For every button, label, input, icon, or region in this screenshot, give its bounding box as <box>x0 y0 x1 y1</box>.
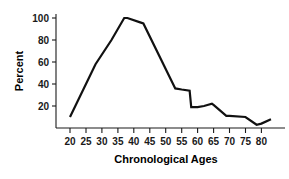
x-tick-label-25: 25 <box>80 136 92 147</box>
x-tick-label-35: 35 <box>112 136 124 147</box>
y-axis-ticks <box>52 18 56 106</box>
x-tick-label-30: 30 <box>96 136 108 147</box>
x-tick-label-50: 50 <box>160 136 172 147</box>
y-tick-label-80: 80 <box>38 35 50 46</box>
x-tick-label-70: 70 <box>224 136 236 147</box>
x-tick-label-45: 45 <box>144 136 156 147</box>
y-tick-label-60: 60 <box>38 57 50 68</box>
x-axis-ticks <box>70 128 261 133</box>
y-tick-label-20: 20 <box>38 101 50 112</box>
x-tick-label-75: 75 <box>240 136 252 147</box>
x-tick-label-60: 60 <box>192 136 204 147</box>
y-axis-title: Percent <box>13 50 25 91</box>
x-tick-label-65: 65 <box>208 136 220 147</box>
data-line-percent <box>70 18 271 125</box>
x-tick-label-40: 40 <box>128 136 140 147</box>
chart-container: 100 80 60 40 20 Percent <box>0 0 289 179</box>
y-axis-group: 100 80 60 40 20 Percent <box>13 13 56 129</box>
x-tick-label-80: 80 <box>256 136 268 147</box>
x-tick-label-20: 20 <box>64 136 76 147</box>
x-axis-group: 20 25 30 35 40 45 50 55 60 65 70 75 80 C… <box>56 128 285 165</box>
x-tick-label-55: 55 <box>176 136 188 147</box>
x-axis-title: Chronological Ages <box>114 153 218 165</box>
y-tick-label-40: 40 <box>38 79 50 90</box>
y-tick-label-100: 100 <box>32 13 49 24</box>
line-chart: 100 80 60 40 20 Percent <box>0 0 289 179</box>
